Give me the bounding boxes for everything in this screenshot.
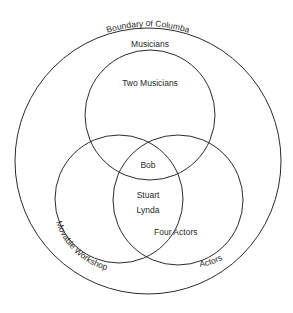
movable-workshop-label: Movable Workshop bbox=[54, 219, 109, 272]
actors-label: Actors bbox=[198, 252, 223, 269]
musicians-label: Musicians bbox=[131, 39, 169, 49]
two-musicians-label: Two Musicians bbox=[122, 78, 178, 88]
stuart-label: Stuart bbox=[137, 190, 160, 200]
boundary-label: Boundary of Columba bbox=[105, 18, 191, 34]
venn-diagram: Boundary of Columba Musicians Two Musici… bbox=[0, 0, 293, 313]
four-actors-label: Four Actors bbox=[154, 227, 197, 237]
bob-label: Bob bbox=[140, 160, 155, 170]
lynda-label: Lynda bbox=[137, 205, 160, 215]
actors-circle bbox=[113, 135, 243, 265]
